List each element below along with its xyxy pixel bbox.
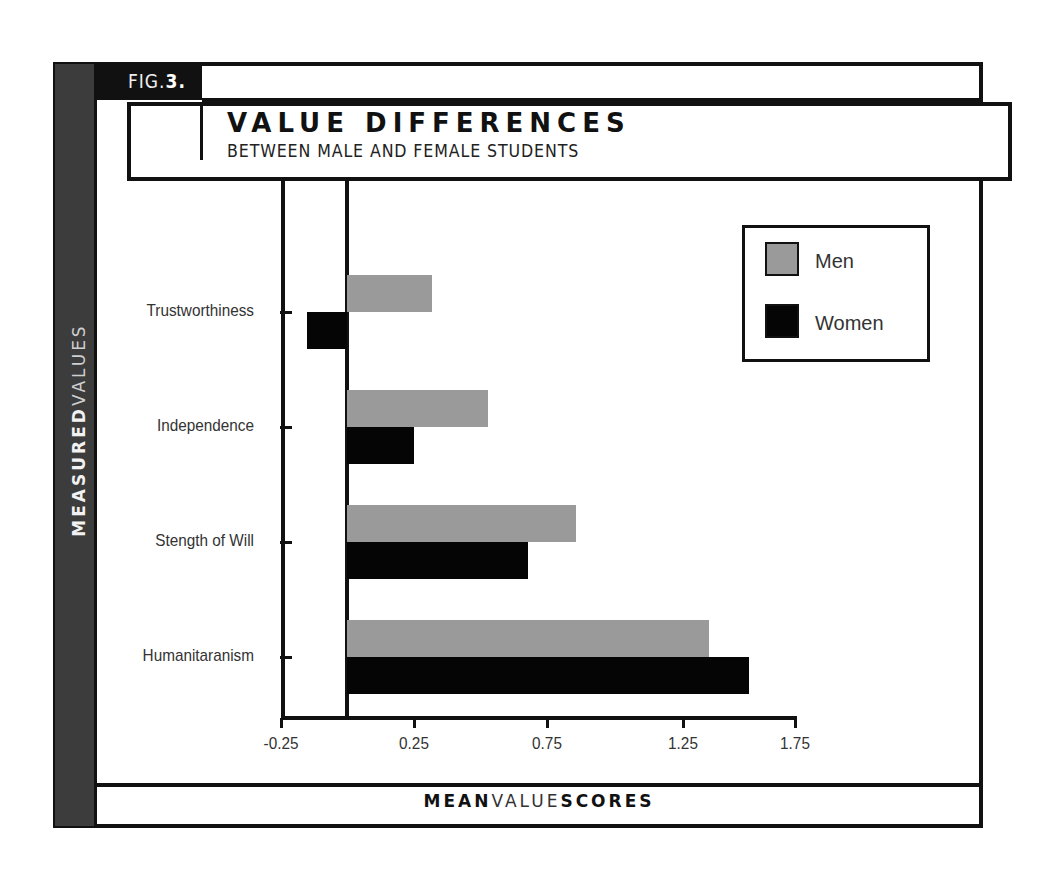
- y-axis-line: [281, 181, 285, 718]
- category-label: Stength of Will: [110, 531, 254, 551]
- x-tick-label: 1.75: [768, 734, 822, 754]
- bar-women: [347, 542, 528, 579]
- y-tick: [280, 311, 292, 314]
- bar-men: [347, 275, 432, 312]
- bar-men: [347, 390, 488, 427]
- y-tick: [280, 541, 292, 544]
- x-axis-line: [281, 716, 797, 720]
- x-tick: [413, 718, 416, 728]
- bar-women: [347, 427, 414, 464]
- x-tick-label: 0.75: [520, 734, 574, 754]
- category-label: Trustworthiness: [110, 301, 254, 321]
- legend-label-women: Women: [815, 312, 884, 335]
- x-tick: [280, 718, 283, 728]
- x-tick: [794, 718, 797, 728]
- y-tick: [280, 426, 292, 429]
- bar-women: [347, 657, 749, 694]
- legend-label-men: Men: [815, 250, 854, 273]
- category-label: Humanitaranism: [110, 646, 254, 666]
- bar-men: [347, 620, 709, 657]
- x-tick-label: -0.25: [254, 734, 308, 754]
- bar-men: [347, 505, 576, 542]
- legend-swatch-women: [765, 304, 799, 338]
- legend: Men Women: [742, 225, 930, 362]
- x-tick: [546, 718, 549, 728]
- y-tick: [280, 656, 292, 659]
- plot-area: -0.250.250.751.251.75TrustworthinessInde…: [0, 0, 1056, 882]
- x-tick-label: 0.25: [387, 734, 441, 754]
- bar-women: [307, 312, 347, 349]
- category-label: Independence: [110, 416, 254, 436]
- legend-swatch-men: [765, 242, 799, 276]
- x-tick: [682, 718, 685, 728]
- x-tick-label: 1.25: [656, 734, 710, 754]
